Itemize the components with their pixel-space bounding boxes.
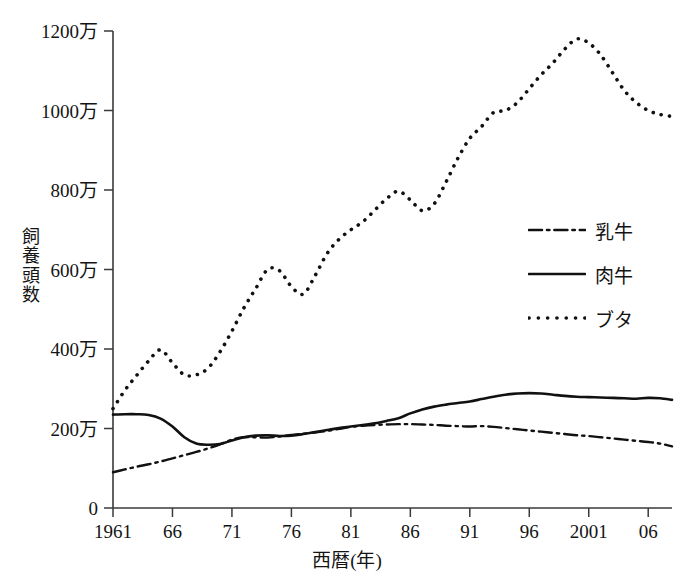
legend-item-3: ブタ — [528, 296, 678, 340]
x-axis-tick-label: 1961 — [94, 522, 132, 541]
chart-figure: 1200万1000万800万600万400万200万0 196166717681… — [0, 0, 694, 579]
y-axis-title-char: 頭 — [18, 267, 44, 286]
x-axis-tick-label: 81 — [341, 522, 360, 541]
x-axis-tick-label: 71 — [222, 522, 241, 541]
legend-item-2: 肉牛 — [528, 252, 678, 296]
chart-legend: 乳牛肉牛ブタ — [528, 208, 678, 340]
legend-item-1: 乳牛 — [528, 208, 678, 252]
chart-series-line — [113, 393, 672, 445]
y-axis-tick-label: 1000万 — [0, 101, 98, 120]
x-axis-tick-label: 91 — [460, 522, 479, 541]
y-axis-tick-label: 1200万 — [0, 22, 98, 41]
y-axis-tick-label: 800万 — [0, 181, 98, 200]
x-axis-title: 西暦(年) — [0, 545, 694, 572]
y-axis-title-char: 養 — [18, 247, 44, 266]
legend-swatch-dashdot — [528, 223, 586, 237]
x-axis-tick-label: 86 — [401, 522, 420, 541]
y-axis-title-char: 飼 — [18, 228, 44, 247]
y-axis-ticks — [104, 31, 113, 508]
y-axis-tick-label: 0 — [0, 499, 98, 518]
x-axis-tick-label: 06 — [639, 522, 658, 541]
legend-swatch-dotted — [528, 311, 586, 325]
legend-label: 肉牛 — [595, 261, 633, 288]
y-axis-tick-label: 400万 — [0, 340, 98, 359]
y-axis-title-char: 数 — [18, 286, 44, 305]
legend-swatch-solid — [528, 267, 586, 281]
x-axis-tick-label: 66 — [163, 522, 182, 541]
x-axis-ticks — [113, 508, 648, 517]
legend-label: 乳牛 — [595, 217, 633, 244]
x-axis-tick-label: 76 — [282, 522, 301, 541]
y-axis-tick-label: 600万 — [0, 260, 98, 279]
legend-label: ブタ — [595, 305, 633, 332]
chart-series-line — [113, 424, 672, 472]
y-axis-title: 飼養頭数 — [18, 228, 44, 306]
y-axis-tick-label: 200万 — [0, 419, 98, 438]
x-axis-tick-label: 2001 — [570, 522, 608, 541]
x-axis-tick-label: 96 — [520, 522, 539, 541]
